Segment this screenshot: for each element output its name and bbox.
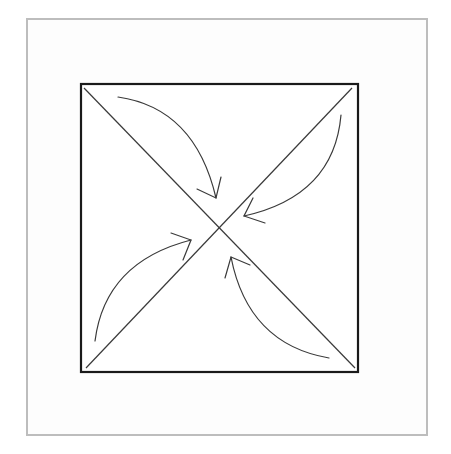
fold-diagram [0,0,451,454]
